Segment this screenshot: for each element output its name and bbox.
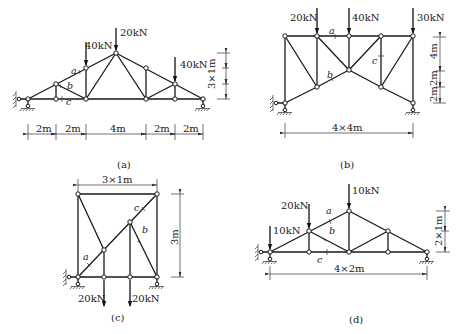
member-label: a [71,65,77,76]
truss-diagrams: 20kN 40kN 40kN a b c 2m 2m [0,0,458,334]
figure-b: 20kN 40kN 30kN a b c 4×4m [270,8,446,170]
load-label: 20kN [281,200,309,211]
dimension-label: 2m [154,123,170,134]
dimension-label: 2×1m [433,215,444,246]
member-label: a [326,205,332,216]
dimension-label: 4m [428,43,439,59]
roller-support-icon [195,101,210,111]
member-label: b [67,80,73,91]
dimension-label: 2m [428,86,439,102]
dimension-label: 2m [36,123,52,134]
member-label: b [142,224,148,235]
dimension-label: 3m [169,229,180,245]
dimension-label: 2m [65,123,81,134]
member-label: b [327,69,333,80]
dimension-line [217,53,230,99]
figure-caption: (a) [117,159,131,170]
roller-support-icon [419,254,434,264]
pin-support-icon [63,269,85,289]
member-label: c [372,55,378,66]
member-label: c [66,96,72,107]
dimension-label: 3×1m [102,174,133,185]
member-label: b [329,225,335,236]
member-label: c [317,254,323,265]
figure-d: 10kN 20kN 10kN a b c 4×2m 2×1m (d [255,184,450,325]
dimension-label: 3×1m [206,58,217,89]
member-label: c [134,202,140,213]
roller-support-icon [405,105,420,115]
load-label: 10kN [352,185,380,196]
dimension-label: 4×2m [334,263,365,274]
pin-support-icon [255,244,277,264]
load-label: 20kN [120,27,148,38]
dimension-label: 2m [428,70,439,86]
figure-c: 20kN 20kN a b c 3×1m 3m (c) [63,174,184,323]
roller-support-icon [149,279,164,289]
truss-c-members [78,194,157,277]
member-label: a [83,251,89,262]
dimension-label: 4m [110,123,126,134]
truss-a-members [28,53,203,99]
load-label: 30kN [417,12,445,23]
figure-a: 20kN 40kN 40kN a b c 2m 2m [13,27,230,170]
truss-a-nodes [26,51,205,101]
figure-caption: (c) [111,312,125,323]
dimension-label: 4×4m [332,122,363,133]
load-label: 40kN [180,59,208,70]
load-label: 40kN [352,12,380,23]
load-label: 20kN [290,12,318,23]
figure-caption: (d) [349,314,363,325]
dimension-label: 2m [183,123,199,134]
pin-support-icon [13,91,35,111]
figure-caption: (b) [340,159,354,170]
load-label: 10kN [273,225,301,236]
load-label: 20kN [78,293,106,304]
load-label: 40kN [85,40,113,51]
pin-support-icon [270,95,292,115]
member-label: a [329,25,335,36]
load-label: 20kN [132,293,160,304]
